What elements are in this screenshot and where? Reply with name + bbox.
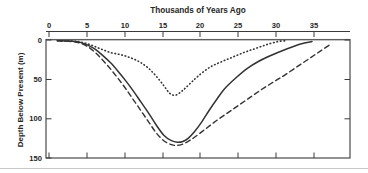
x-tick-label-25: 25 (234, 21, 243, 30)
x-tick-labels: 0 5 10 15 20 25 30 35 (47, 21, 319, 30)
plot-frame (46, 40, 350, 159)
x-tick-label-5: 5 (85, 21, 90, 30)
x-tick-label-15: 15 (159, 21, 168, 30)
x-tick-label-10: 10 (121, 21, 129, 30)
y-tick-labels: 0 50 100 150 (29, 36, 42, 163)
x-tick-label-0: 0 (47, 21, 51, 30)
x-tick-label-35: 35 (310, 21, 319, 30)
series-dashed-curve (57, 41, 331, 146)
y-tick-label-150: 150 (29, 154, 42, 163)
chart-title: Thousands of Years Ago (150, 6, 246, 15)
figure-container: Thousands of Years Ago Depth Below Prese… (0, 0, 368, 173)
y-tick-label-100: 100 (29, 114, 42, 123)
series-solid-curve (57, 41, 312, 143)
y-axis-label: Depth Below Present (m) (16, 52, 25, 147)
x-tick-label-30: 30 (272, 21, 280, 30)
y-tick-label-0: 0 (38, 36, 42, 45)
data-curves (57, 41, 331, 146)
right-axis-ticks (345, 40, 351, 119)
y-axis-ticks (46, 40, 52, 158)
x-tick-label-20: 20 (196, 21, 204, 30)
y-tick-label-50: 50 (34, 75, 42, 84)
top-axis-ticks (49, 32, 314, 38)
bottom-axis-ticks (49, 153, 314, 159)
sea-level-chart: Thousands of Years Ago Depth Below Prese… (0, 0, 368, 173)
